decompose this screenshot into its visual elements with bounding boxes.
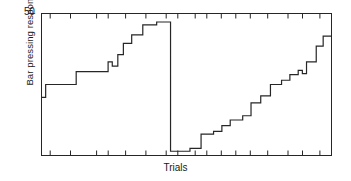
x-axis-top-ticks <box>50 14 320 19</box>
chart-figure: 50 Bar pressing response Trials <box>0 0 351 181</box>
x-axis-label: Trials <box>0 162 351 173</box>
chart-plot-svg <box>0 0 351 181</box>
plot-frame <box>42 14 332 156</box>
series-bar-pressing-response <box>42 22 332 151</box>
y-axis-label-wrapper: Bar pressing response <box>22 0 36 112</box>
y-axis-label: Bar pressing response <box>24 0 35 86</box>
plot-frame-rect <box>42 14 332 156</box>
data-series-group <box>42 22 332 151</box>
